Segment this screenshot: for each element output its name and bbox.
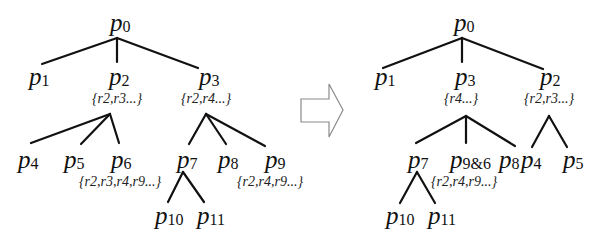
edge-p0-p1: [42, 38, 117, 64]
node-p1: p1: [373, 63, 396, 90]
node-p3: p3: [197, 63, 220, 90]
edge-p7-p10: [400, 172, 417, 203]
node-p4: p4: [16, 146, 39, 173]
node-p3: p3: [453, 63, 476, 90]
edge-p0-p1: [383, 38, 462, 68]
node-p1: p1: [27, 63, 50, 90]
right-arrow-icon: [301, 84, 343, 137]
edge-p3-p7: [416, 116, 466, 143]
tree-transformation-diagram: p0 p1 p2 p3 {r2,r3...} {r2,r4...} p4 p5 …: [0, 0, 600, 241]
node-p5: p5: [62, 146, 85, 173]
edge-p3-p8: [466, 116, 515, 146]
edge-p7-p11: [183, 172, 204, 202]
node-p5: p5: [561, 146, 584, 173]
node-p2: p2: [538, 63, 561, 90]
edge-p2-p4: [31, 114, 110, 143]
set-label-p2: {r2,r3...}: [92, 91, 142, 106]
node-p7: p7: [175, 146, 198, 173]
set-label-p3: {r4...}: [444, 91, 479, 106]
node-p10: p10: [153, 202, 184, 229]
node-p10: p10: [384, 202, 415, 229]
node-p6: p6: [109, 146, 132, 173]
set-label-p9-and-6: {r2,r4,r9...}: [431, 174, 497, 189]
edge-p0-p3: [117, 38, 198, 68]
edge-p2-p4: [532, 116, 549, 147]
edge-p2-p6: [110, 114, 119, 143]
node-p8: p8: [216, 146, 239, 173]
node-p0: p0: [452, 9, 475, 36]
node-p9: p9: [263, 146, 286, 173]
right-tree: p0 p1 p3 p2 {r4...} {r2,r3...} p7 p9&6 p…: [373, 9, 584, 229]
edge-p0-p2: [462, 38, 543, 69]
edge-p2-p5: [549, 116, 567, 147]
node-p11: p11: [426, 202, 456, 229]
node-p2: p2: [107, 63, 130, 90]
left-tree: p0 p1 p2 p3 {r2,r3...} {r2,r4...} p4 p5 …: [16, 9, 303, 229]
node-p9-and-6: p9&6: [448, 146, 491, 173]
edge-p3-p7: [189, 114, 206, 144]
set-label-p2: {r2,r3...}: [524, 91, 574, 106]
set-label-p6: {r2,r3,r4,r9...}: [79, 174, 161, 189]
set-label-p3: {r2,r4...}: [181, 91, 231, 106]
edge-p3-p9: [206, 114, 265, 146]
node-p0: p0: [108, 9, 131, 36]
set-label-p9: {r2,r4,r9...}: [237, 174, 303, 189]
transform-arrow: [301, 84, 343, 137]
node-p11: p11: [195, 202, 225, 229]
node-p4: p4: [519, 146, 542, 173]
edge-p7-p10: [168, 172, 183, 202]
node-p8: p8: [497, 146, 520, 173]
node-p7: p7: [406, 146, 429, 173]
